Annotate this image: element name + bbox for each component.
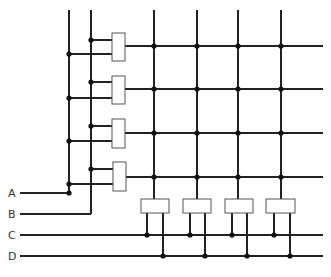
junction-dot xyxy=(88,166,93,171)
junction-dot xyxy=(66,51,71,56)
input-label-b: B xyxy=(8,208,16,221)
junction-dot xyxy=(235,130,240,135)
junction-dot xyxy=(278,43,283,48)
junction-dot xyxy=(229,232,234,237)
junction-dot xyxy=(287,253,292,258)
input-label-a: A xyxy=(8,187,16,200)
junction-dot xyxy=(278,174,283,179)
junction-dot xyxy=(235,174,240,179)
junction-dot xyxy=(88,123,93,128)
junction-dot xyxy=(194,43,199,48)
junction-dot xyxy=(151,174,156,179)
input-label-c: C xyxy=(8,229,16,242)
junction-dot xyxy=(194,86,199,91)
junction-dot xyxy=(187,232,192,237)
junction-dot xyxy=(144,232,149,237)
junction-dot xyxy=(151,43,156,48)
junction-dot xyxy=(271,232,276,237)
junction-dot xyxy=(66,181,71,186)
junction-dot xyxy=(160,253,165,258)
junction-dot xyxy=(235,43,240,48)
junction-dot xyxy=(244,253,249,258)
column-gate-4 xyxy=(266,199,295,213)
junction-dot xyxy=(194,130,199,135)
junction-dot xyxy=(202,253,207,258)
junction-dot xyxy=(151,130,156,135)
junction-dot xyxy=(278,86,283,91)
junction-dot xyxy=(235,86,240,91)
column-decoder-gates xyxy=(141,199,295,213)
junction-dot xyxy=(88,37,93,42)
junction-dot xyxy=(151,86,156,91)
junction-dots xyxy=(66,37,292,258)
junction-dot xyxy=(194,174,199,179)
column-gate-3 xyxy=(225,199,253,213)
column-gate-1 xyxy=(141,199,169,213)
input-label-d: D xyxy=(8,250,16,263)
junction-dot xyxy=(66,138,71,143)
junction-dot xyxy=(66,95,71,100)
row-gate-3 xyxy=(112,119,125,148)
junction-dot xyxy=(278,130,283,135)
junction-dot xyxy=(66,190,71,195)
junction-dot xyxy=(88,79,93,84)
row-gate-4 xyxy=(113,162,126,191)
row-decoder-gates xyxy=(112,33,126,191)
row-gate-1 xyxy=(112,33,125,61)
decoder-matrix-diagram: ABCD xyxy=(0,0,331,277)
row-gate-2 xyxy=(112,76,125,104)
column-gate-2 xyxy=(183,199,211,213)
input-labels: ABCD xyxy=(8,187,16,263)
